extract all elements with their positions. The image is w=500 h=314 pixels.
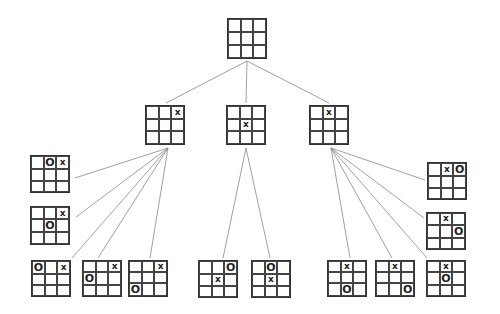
board-cell [241,45,254,58]
board-cell [159,106,172,119]
board-cell [353,283,366,296]
board-cell [428,188,441,200]
board-cell: x [440,261,453,272]
board-cell [31,207,44,219]
board-cell: x [171,106,184,119]
tree-edge [150,148,168,258]
board-cell [441,188,454,200]
board-cell [376,283,389,296]
board-cell [253,32,266,45]
board-cell: x [108,261,121,272]
tree-edge [246,148,270,258]
board-l2-b: xO [30,206,70,245]
board-cell [228,32,241,45]
board-cell [427,261,440,272]
board-cell [341,272,354,283]
board-l2-e: xO [128,260,168,297]
board-cell [427,213,440,225]
board-cell [401,261,414,272]
board-cell [252,261,265,274]
board-cell [452,285,465,296]
board-cell [31,169,44,181]
board-cell [227,131,240,144]
board-cell [56,232,69,244]
board-cell [171,119,184,132]
board-cell [199,261,212,274]
board-cell [146,131,159,144]
board-cell [328,283,341,296]
board-cell: x [240,119,253,132]
board-cell: O [44,156,57,169]
board-cell [57,285,70,296]
board-cell: O [32,261,45,274]
board-cell [146,106,159,119]
board-cell: O [265,261,278,274]
board-cell [154,272,167,283]
board-cell [56,181,69,193]
board-cell [389,283,402,296]
board-cell [45,261,58,274]
board-cell [44,181,57,193]
board-cell [310,119,323,132]
board-cell [440,285,453,296]
board-cell: O [83,272,96,285]
tree-edge [166,61,247,103]
board-cell: x [265,274,278,286]
board-cell [241,32,254,45]
board-l2-h: xO [327,260,367,297]
tree-edge [72,148,168,258]
board-cell [159,119,172,132]
board-cell [31,156,44,169]
board-cell [212,286,225,298]
board-cell [427,225,440,238]
board-cell [44,207,57,219]
board-l2-i: xO [375,260,415,297]
board-cell [142,283,155,296]
board-cell [427,285,440,296]
board-l2-j: xO [426,260,466,297]
board-cell [452,238,465,250]
board-cell [323,131,336,144]
board-l2-d: xO [82,260,122,297]
board-cell [45,285,58,296]
board-cell [335,131,348,144]
board-cell: O [401,283,414,296]
board-cell [335,119,348,132]
board-cell [310,131,323,144]
board-cell [353,261,366,272]
board-cell [32,274,45,285]
board-cell [376,261,389,272]
board-cell [453,176,466,188]
board-root [227,18,267,59]
board-cell [253,19,266,32]
board-cell: O [44,219,57,232]
board-cell [31,232,44,244]
board-cell [265,286,278,298]
board-cell [277,261,290,274]
board-cell [224,286,237,298]
tree-edge [76,148,168,217]
board-cell: O [224,261,237,274]
board-cell: O [440,272,453,285]
board-cell [129,261,142,272]
board-cell: x [57,261,70,274]
tree-edge [98,148,168,258]
board-cell [171,131,184,144]
board-cell [323,119,336,132]
board-cell [212,261,225,274]
board-l1-edge: x [309,105,349,145]
board-cell [142,272,155,283]
board-cell [228,45,241,58]
board-cell [96,272,109,285]
board-cell [353,272,366,283]
board-cell [277,274,290,286]
board-cell [56,169,69,181]
board-cell [146,119,159,132]
board-cell [328,272,341,283]
tree-edge [331,148,424,218]
board-cell [108,285,121,296]
board-cell [57,274,70,285]
board-cell [154,283,167,296]
board-cell [96,261,109,272]
board-cell: x [323,106,336,119]
